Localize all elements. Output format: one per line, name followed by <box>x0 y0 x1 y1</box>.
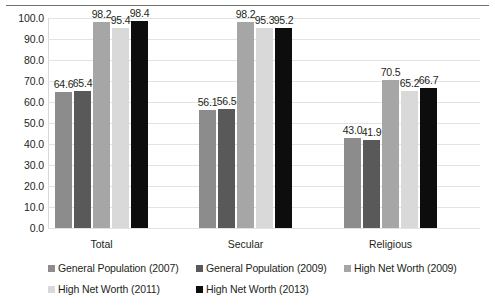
legend-item[interactable]: High Net Worth (2011) <box>48 279 160 299</box>
x-axis-category-label: Total <box>42 238 162 250</box>
bar[interactable] <box>363 140 380 228</box>
legend-label: General Population (2009) <box>206 262 327 274</box>
y-axis-tick-label: 70.0 <box>0 76 44 86</box>
bar-group: 43.041.970.565.266.7 <box>344 18 437 228</box>
bar[interactable] <box>218 109 235 228</box>
bar[interactable] <box>55 92 72 228</box>
bar[interactable] <box>401 91 418 228</box>
legend-swatch-icon <box>48 286 55 293</box>
y-axis-tick-label: 10.0 <box>0 202 44 212</box>
bar-group: 64.665.498.295.498.4 <box>55 18 148 228</box>
y-axis-tick-label: 80.0 <box>0 55 44 65</box>
bar[interactable] <box>256 28 273 228</box>
bar[interactable] <box>199 110 216 228</box>
x-axis-category-label: Religious <box>331 238 451 250</box>
legend-item[interactable]: High Net Worth (2009) <box>344 258 457 278</box>
bar-value-label: 98.4 <box>120 8 160 19</box>
bar[interactable] <box>131 21 148 228</box>
y-axis-tick-label: 40.0 <box>0 139 44 149</box>
bar[interactable] <box>237 22 254 228</box>
bar[interactable] <box>420 88 437 228</box>
legend-swatch-icon <box>344 265 351 272</box>
bar-group: 56.156.598.295.395.2 <box>199 18 292 228</box>
x-axis-category-label: Secular <box>186 238 306 250</box>
y-axis-tick-label: 30.0 <box>0 160 44 170</box>
legend-item[interactable]: General Population (2009) <box>196 258 327 278</box>
top-divider-rule <box>6 5 489 6</box>
legend-row: General Population (2007)General Populat… <box>48 258 488 278</box>
legend-swatch-icon <box>196 265 203 272</box>
y-axis-tick-label: 100.0 <box>0 13 44 23</box>
y-axis-tick-label: 90.0 <box>0 34 44 44</box>
bar[interactable] <box>74 91 91 228</box>
y-axis-tick-label: 20.0 <box>0 181 44 191</box>
gridline <box>48 228 480 229</box>
legend-swatch-icon <box>196 286 203 293</box>
y-axis-tick-labels: 100.090.080.070.060.050.040.030.020.010.… <box>0 18 44 228</box>
bar-value-label: 66.7 <box>409 75 449 86</box>
bar-value-label: 95.2 <box>264 15 304 26</box>
legend-label: High Net Worth (2009) <box>354 262 457 274</box>
y-axis-tick-label: 60.0 <box>0 97 44 107</box>
legend-label: High Net Worth (2013) <box>206 283 309 295</box>
chart-legend: General Population (2007)General Populat… <box>48 258 488 304</box>
legend-label: High Net Worth (2011) <box>58 283 160 295</box>
legend-item[interactable]: High Net Worth (2013) <box>196 279 309 299</box>
legend-row: High Net Worth (2011)High Net Worth (201… <box>48 279 488 299</box>
bar[interactable] <box>112 28 129 228</box>
bar[interactable] <box>344 138 361 228</box>
bar[interactable] <box>275 28 292 228</box>
y-axis-tick-label: 0.0 <box>0 223 44 233</box>
legend-label: General Population (2007) <box>58 262 179 274</box>
bar[interactable] <box>382 80 399 228</box>
legend-item[interactable]: General Population (2007) <box>48 258 179 278</box>
bar[interactable] <box>93 22 110 228</box>
legend-swatch-icon <box>48 265 55 272</box>
plot-area: 64.665.498.295.498.456.156.598.295.395.2… <box>48 18 480 228</box>
y-axis-tick-label: 50.0 <box>0 118 44 128</box>
bar-chart-figure: 100.090.080.070.060.050.040.030.020.010.… <box>0 0 495 307</box>
